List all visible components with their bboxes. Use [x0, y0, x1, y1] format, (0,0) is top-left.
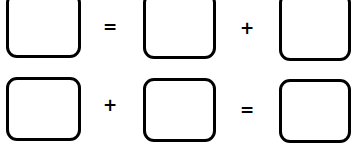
- answer-box-row2-col2[interactable]: [143, 78, 216, 142]
- answer-box-row1-col3[interactable]: [279, 0, 351, 61]
- answer-box-row1-col1[interactable]: [6, 0, 81, 58]
- answer-box-row2-col3[interactable]: [279, 79, 351, 143]
- plus-sign-row1: +: [237, 20, 257, 37]
- plus-sign-row2: +: [100, 97, 120, 114]
- answer-box-row1-col2[interactable]: [143, 0, 216, 59]
- answer-box-row2-col1[interactable]: [6, 77, 81, 141]
- equals-sign-row1: =: [100, 19, 120, 36]
- equals-sign-row2: =: [237, 102, 257, 119]
